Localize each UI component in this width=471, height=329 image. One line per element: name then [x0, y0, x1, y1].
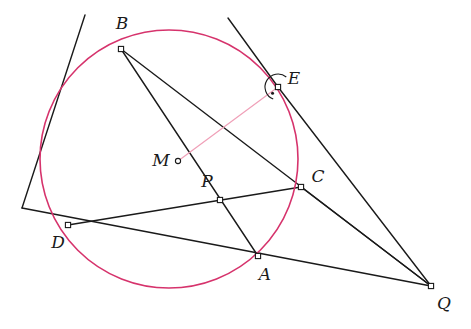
- segments-layer: [22, 15, 431, 286]
- point-marker-C: [298, 184, 303, 189]
- point-label-D: D: [50, 232, 65, 252]
- point-marker-P: [217, 197, 222, 202]
- geometry-diagram: BECPMDAQ: [0, 0, 471, 329]
- point-label-E: E: [287, 68, 301, 88]
- point-marker-B: [118, 46, 123, 51]
- point-marker-D: [65, 222, 70, 227]
- point-marker-Q: [428, 283, 433, 288]
- right-angle-dot: [271, 92, 274, 95]
- point-markers-layer: [65, 46, 433, 288]
- line-tangent-through-B-and-D: [22, 15, 85, 208]
- point-label-Q: Q: [437, 293, 451, 313]
- geometry-canvas: BECPMDAQ: [0, 0, 471, 329]
- point-label-P: P: [200, 171, 213, 191]
- line-D-to-C-through-P: [68, 187, 301, 225]
- point-marker-A: [255, 253, 260, 258]
- point-labels-layer: BECPMDAQ: [50, 13, 451, 313]
- segment-M-to-E: [178, 87, 278, 161]
- point-label-C: C: [311, 166, 324, 186]
- point-label-A: A: [257, 264, 271, 284]
- point-label-B: B: [115, 13, 129, 33]
- point-marker-E: [275, 84, 280, 89]
- point-label-M: M: [151, 150, 170, 170]
- point-marker-M: [175, 158, 180, 163]
